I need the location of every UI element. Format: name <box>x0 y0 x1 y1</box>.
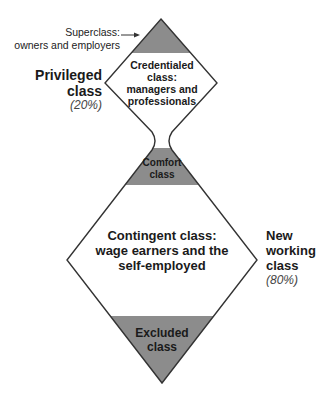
superclass-line2: owners and employers <box>2 39 120 52</box>
privileged-class-label: Privileged class (20%) <box>10 67 102 113</box>
credentialed-line2: class: <box>112 71 212 83</box>
excluded-class-label: Excluded class <box>112 327 212 355</box>
excluded-line1: Excluded <box>112 327 212 341</box>
privileged-line1: Privileged <box>10 67 102 83</box>
credentialed-line4: professionals <box>112 95 212 107</box>
credentialed-line1: Credentialed <box>112 59 212 71</box>
privileged-line2: class <box>10 83 102 99</box>
excluded-line2: class <box>112 341 212 355</box>
privileged-percent: (20%) <box>10 99 102 113</box>
credentialed-line3: managers and <box>112 83 212 95</box>
arrow-icon <box>121 33 140 38</box>
comfort-line2: class <box>122 169 202 181</box>
new-working-class-label: New working class (80%) <box>266 229 332 288</box>
contingent-line3: self-employed <box>82 259 242 274</box>
comfort-class-label: Comfort class <box>122 157 202 180</box>
contingent-class-label: Contingent class: wage earners and the s… <box>82 229 242 274</box>
contingent-line2: wage earners and the <box>82 244 242 259</box>
new-working-line1: New <box>266 229 332 244</box>
credentialed-class-label: Credentialed class: managers and profess… <box>112 59 212 107</box>
superclass-label: Superclass: owners and employers <box>2 26 120 52</box>
contingent-line1: Contingent class: <box>82 229 242 244</box>
comfort-line1: Comfort <box>122 157 202 169</box>
new-working-line2: working <box>266 244 332 259</box>
superclass-line1: Superclass: <box>2 26 120 39</box>
new-working-percent: (80%) <box>266 274 332 288</box>
new-working-line3: class <box>266 259 332 274</box>
